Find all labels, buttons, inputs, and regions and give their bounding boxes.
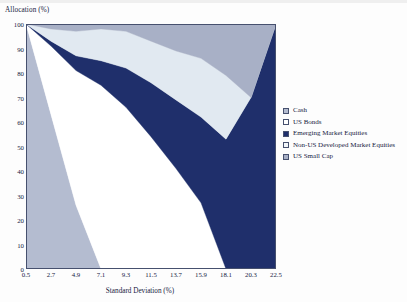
legend-swatch-icon: [283, 119, 289, 125]
legend-item[interactable]: US Bonds: [283, 119, 407, 126]
legend-swatch-icon: [283, 142, 289, 148]
legend-swatch-icon: [283, 108, 289, 114]
y-tick-label: 60: [2, 119, 24, 126]
legend-item[interactable]: Non-US Developed Market Equities: [283, 142, 407, 149]
y-tick-label: 100: [2, 21, 24, 28]
legend-swatch-icon: [283, 131, 289, 137]
chart-figure: Allocation (%) 0102030405060708090100 0.…: [0, 0, 407, 302]
y-axis-tick-labels: 0102030405060708090100: [0, 0, 24, 302]
x-axis-tick-labels: 0.52.74.97.19.311.513.715.918.120.322.5: [0, 271, 407, 283]
y-tick-label: 40: [2, 168, 24, 175]
y-tick-label: 90: [2, 45, 24, 52]
legend-item[interactable]: Cash: [283, 107, 407, 114]
legend-label: US Small Cap: [293, 153, 333, 160]
legend-label: Non-US Developed Market Equities: [293, 142, 395, 149]
y-tick-label: 30: [2, 192, 24, 199]
stacked-area-plot: [26, 24, 276, 269]
y-tick-label: 80: [2, 70, 24, 77]
legend-label: Cash: [293, 107, 307, 114]
legend-label: Emerging Market Equities: [293, 130, 367, 137]
legend-swatch-icon: [283, 154, 289, 160]
y-tick-label: 10: [2, 241, 24, 248]
page-top-edge: [0, 0, 407, 3]
plot-area: [26, 24, 276, 269]
legend-label: US Bonds: [293, 119, 322, 126]
x-axis-title: Standard Deviation (%): [0, 287, 280, 295]
y-tick-label: 50: [2, 143, 24, 150]
legend: CashUS BondsEmerging Market EquitiesNon-…: [283, 107, 407, 165]
legend-item[interactable]: Emerging Market Equities: [283, 130, 407, 137]
legend-item[interactable]: US Small Cap: [283, 153, 407, 160]
y-tick-label: 70: [2, 94, 24, 101]
y-tick-label: 20: [2, 217, 24, 224]
x-tick-label: 22.5: [261, 271, 291, 278]
